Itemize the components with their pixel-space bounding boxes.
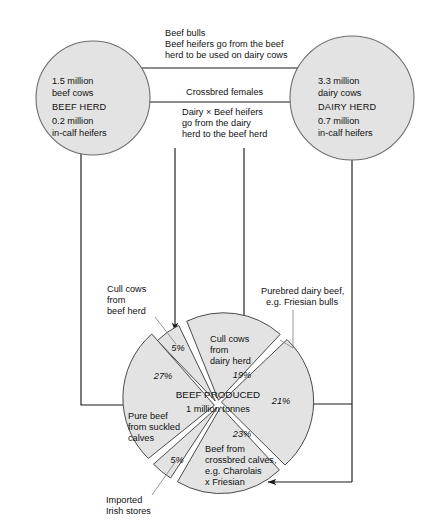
pie-pct-purebred: 21% bbox=[271, 396, 290, 406]
pie-center-subtitle: 1 million tonnes bbox=[186, 404, 250, 414]
beef-herd-name: BEEF HERD bbox=[52, 102, 107, 112]
callout-purebred-l2: e.g. Friesian bulls bbox=[266, 297, 338, 307]
flow-return-label: Crossbred females Dairy × Beef heifers g… bbox=[182, 87, 267, 139]
pie-pct-suckled: 27% bbox=[153, 371, 172, 381]
dairy-herd-node: 3.3 million dairy cows DAIRY HERD 0.7 mi… bbox=[290, 36, 414, 160]
callout-imported-l1: Imported bbox=[106, 495, 142, 505]
pie-pct-cull-dairy: 19% bbox=[233, 370, 251, 380]
dairy-herd-line1: 3.3 million bbox=[318, 76, 359, 86]
dairy-herd-line4: in-calf heifers bbox=[318, 128, 373, 138]
pie-pct-imported: 5% bbox=[170, 455, 183, 465]
flow-top-line1: Beef bulls bbox=[165, 28, 206, 38]
flow-return-line2: go from the dairy bbox=[182, 118, 251, 128]
beef-herd-node: 1.5 million beef cows BEEF HERD 0.2 mill… bbox=[36, 41, 150, 155]
dairy-herd-name: DAIRY HERD bbox=[318, 102, 376, 112]
slice-crossbred-l4: x Friesian bbox=[205, 477, 245, 487]
pie-center-title: BEEF PRODUCED bbox=[176, 389, 260, 400]
callout-cull-beef-l3: beef herd bbox=[107, 306, 146, 316]
arrow-beef-herd-to-suckled-calves bbox=[81, 150, 131, 405]
slice-crossbred-l3: e.g. Charolais bbox=[205, 466, 262, 476]
slice-suckled-l1: Pure beef bbox=[128, 411, 168, 421]
dairy-herd-line3: 0.7 million bbox=[318, 116, 359, 126]
slice-dairy-cull-l3: dairy herd bbox=[210, 356, 251, 366]
slice-suckled-l2: from suckled bbox=[128, 422, 180, 432]
flow-return-title: Crossbred females bbox=[186, 87, 264, 97]
slice-dairy-cull-l1: Cull cows bbox=[210, 334, 250, 344]
flow-return-line3: herd to the beef herd bbox=[182, 129, 267, 139]
beef-herd-line3: 0.2 million bbox=[52, 116, 93, 126]
flow-top-line2: Beef heifers go from the beef bbox=[165, 39, 284, 49]
beef-production-flow-diagram: 1.5 million beef cows BEEF HERD 0.2 mill… bbox=[0, 0, 441, 532]
beef-produced-pie-chart: BEEF PRODUCED 1 million tonnes 5% 19% 21… bbox=[123, 313, 314, 494]
beef-herd-line1: 1.5 million bbox=[52, 76, 93, 86]
callout-cull-beef-l1: Cull cows bbox=[107, 284, 147, 294]
callout-imported-l2: Irish stores bbox=[106, 506, 151, 516]
slice-crossbred-l1: Beef from bbox=[205, 444, 245, 454]
beef-herd-line4: in-calf heifers bbox=[52, 128, 107, 138]
flow-return-line1: Dairy × Beef heifers bbox=[182, 107, 263, 117]
slice-crossbred-l2: crossbred calves, bbox=[205, 455, 277, 465]
dairy-herd-line2: dairy cows bbox=[318, 88, 362, 98]
beef-herd-line2: beef cows bbox=[52, 88, 94, 98]
slice-dairy-cull-l2: from bbox=[210, 345, 229, 355]
dairy-herd-circle bbox=[290, 36, 414, 160]
callout-cull-beef-l2: from bbox=[107, 295, 126, 305]
slice-suckled-l3: calves bbox=[128, 433, 154, 443]
pie-pct-crossbred: 23% bbox=[232, 429, 251, 439]
flow-top-label: Beef bulls Beef heifers go from the beef… bbox=[165, 28, 288, 60]
flow-top-line3: herd to be used on dairy cows bbox=[165, 50, 288, 60]
pie-pct-cull-beef: 5% bbox=[171, 343, 184, 353]
callout-purebred-l1: Purebred dairy beef, bbox=[261, 286, 344, 296]
